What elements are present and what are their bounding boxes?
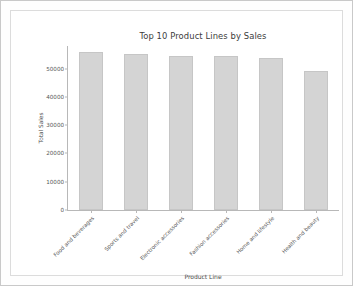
x-axis-tick-mark [181, 210, 182, 213]
x-axis-tick-label: Sports and travel [93, 215, 140, 262]
bar [259, 58, 283, 210]
plot-axes: Total Sales 01000020000300004000050000Fo… [67, 46, 339, 211]
bar [79, 52, 103, 210]
x-axis-tick-mark [91, 210, 92, 213]
x-axis-tick-label: Health and beauty [274, 215, 321, 262]
y-axis-tick-mark [65, 68, 68, 69]
bar [124, 54, 148, 210]
y-axis-label: Total Sales [38, 113, 44, 144]
x-axis-label: Product Line [67, 273, 339, 280]
x-axis-tick-label: Food and beverages [48, 215, 95, 262]
x-axis-tick-mark [316, 210, 317, 213]
figure-panel: Top 10 Product Lines by Sales Total Sale… [10, 10, 343, 276]
y-axis-tick-mark [65, 210, 68, 211]
x-axis-tick-mark [226, 210, 227, 213]
chart-title: Top 10 Product Lines by Sales [67, 31, 339, 41]
y-axis-tick-mark [65, 181, 68, 182]
bar [304, 71, 328, 210]
x-axis-tick-mark [271, 210, 272, 213]
x-axis-tick-label: Home and lifestyle [229, 215, 276, 262]
x-axis-tick-label: Electronic accessories [138, 215, 185, 262]
y-axis-tick-mark [65, 125, 68, 126]
chart-figure: Top 10 Product Lines by Sales Total Sale… [0, 0, 353, 286]
y-axis-tick-mark [65, 96, 68, 97]
bar [214, 56, 238, 210]
x-axis-tick-mark [136, 210, 137, 213]
y-axis-tick-mark [65, 153, 68, 154]
bar [169, 56, 193, 210]
x-axis-tick-label: Fashion accessories [184, 215, 231, 262]
plot-area [68, 46, 339, 210]
